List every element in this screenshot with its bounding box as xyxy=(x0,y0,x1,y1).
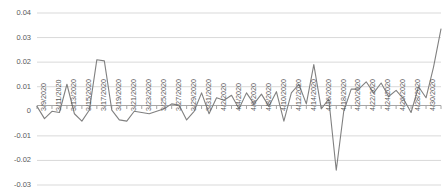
y-axis-tick-label: 0.04 xyxy=(1,9,31,17)
x-axis-tick-label: 4/16/2020 xyxy=(325,79,333,111)
x-axis-tick-label: 4/30/2020 xyxy=(429,79,437,111)
x-axis-tick-label: 3/17/2020 xyxy=(100,79,108,111)
line-chart: 0.040.030.020.010-0.01-0.02-0.03 3/9/202… xyxy=(0,0,442,194)
x-axis-tick-label: 3/21/2020 xyxy=(130,79,138,111)
x-axis-tick-label: 4/26/2020 xyxy=(399,79,407,111)
x-axis-tick-label: 3/13/2020 xyxy=(70,79,78,111)
x-axis-tick-label: 4/22/2020 xyxy=(369,79,377,111)
x-axis-tick-label: 3/27/2020 xyxy=(175,79,183,111)
x-axis-tick-label: 3/11/2020 xyxy=(55,80,63,111)
x-axis-tick-label: 4/20/2020 xyxy=(354,79,362,111)
x-axis-tick-label: 4/18/2020 xyxy=(340,79,348,111)
y-axis-tick-label: -0.01 xyxy=(1,132,31,140)
y-axis-tick-label: -0.02 xyxy=(1,156,31,164)
x-axis-tick-label: 4/12/2020 xyxy=(295,79,303,111)
x-axis-tick-label: 3/31/2020 xyxy=(205,79,213,111)
x-axis-tick-label: 4/6/2020 xyxy=(250,83,258,111)
x-axis-tick-label: 3/23/2020 xyxy=(145,79,153,111)
y-axis-tick-label: 0.02 xyxy=(1,58,31,66)
y-axis-tick-label: 0.03 xyxy=(1,34,31,42)
x-axis-tick-label: 3/9/2020 xyxy=(40,83,48,111)
x-axis-tick-label: 4/4/2020 xyxy=(235,83,243,111)
y-axis-tick-label: 0.01 xyxy=(1,83,31,91)
x-axis-tick-label: 3/25/2020 xyxy=(160,79,168,111)
y-axis-tick-label: 0 xyxy=(1,107,31,115)
x-axis-tick-label: 3/29/2020 xyxy=(190,79,198,111)
x-axis-tick-label: 3/19/2020 xyxy=(115,79,123,111)
x-axis-tick-label: 4/8/2020 xyxy=(265,83,273,111)
x-axis-tick-label: 4/14/2020 xyxy=(310,79,318,111)
y-axis-tick-label: -0.03 xyxy=(1,181,31,189)
x-axis-tick-label: 4/24/2020 xyxy=(384,79,392,111)
x-axis-tick-label: 4/28/2020 xyxy=(414,79,422,111)
x-axis-tick-label: 4/10/2020 xyxy=(280,79,288,111)
x-axis-tick-label: 4/2/2020 xyxy=(220,83,228,111)
x-axis-tick-label: 3/15/2020 xyxy=(85,79,93,111)
